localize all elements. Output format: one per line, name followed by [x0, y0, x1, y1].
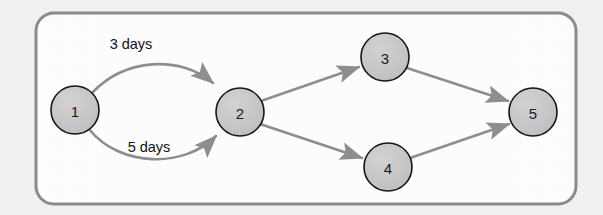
graph-canvas: 1 2 3 4 5 3 days 5 days [0, 0, 603, 215]
node-5[interactable]: 5 [509, 88, 557, 136]
node-5-label: 5 [529, 105, 537, 122]
node-2[interactable]: 2 [216, 88, 264, 136]
node-1[interactable]: 1 [51, 86, 99, 134]
edge-label-3-days: 3 days [110, 36, 153, 52]
node-4[interactable]: 4 [364, 143, 412, 191]
edge-label-5-days: 5 days [128, 139, 171, 155]
node-4-label: 4 [384, 160, 392, 177]
node-3[interactable]: 3 [361, 33, 409, 81]
node-1-label: 1 [71, 103, 79, 120]
node-3-label: 3 [381, 50, 389, 67]
node-2-label: 2 [236, 105, 244, 122]
diagram-page: 1 2 3 4 5 3 days 5 days [0, 0, 603, 215]
